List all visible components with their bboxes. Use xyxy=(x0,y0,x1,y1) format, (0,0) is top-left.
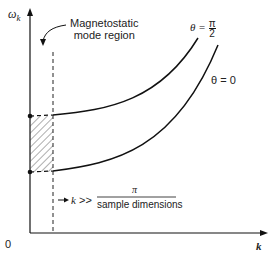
condition-numerator: π xyxy=(132,184,137,196)
hatched-band xyxy=(30,116,53,172)
condition-arrow-icon xyxy=(64,198,69,203)
annotation-arrow-head-icon xyxy=(40,39,46,46)
annotation-region-label: Magnetostatic mode region xyxy=(70,17,138,41)
condition-denominator: sample dimensions xyxy=(97,199,183,211)
annotation-arrow xyxy=(43,25,66,41)
lower-intercept-dot xyxy=(28,170,33,175)
y-axis-arrow-icon xyxy=(27,8,33,16)
y-axis-label: ωk xyxy=(8,8,20,24)
curve-upper-label: θ = π 2 xyxy=(190,19,216,38)
x-axis-arrow-icon xyxy=(260,230,268,236)
origin-label: 0 xyxy=(5,238,11,250)
condition-label: k >> xyxy=(71,194,92,206)
curve-theta-pi-over-2 xyxy=(53,38,198,115)
upper-intercept-dot xyxy=(28,114,33,119)
curve-lower-label: θ = 0 xyxy=(211,74,236,86)
x-axis-label: k xyxy=(256,240,262,252)
curve-theta-0 xyxy=(53,45,218,171)
